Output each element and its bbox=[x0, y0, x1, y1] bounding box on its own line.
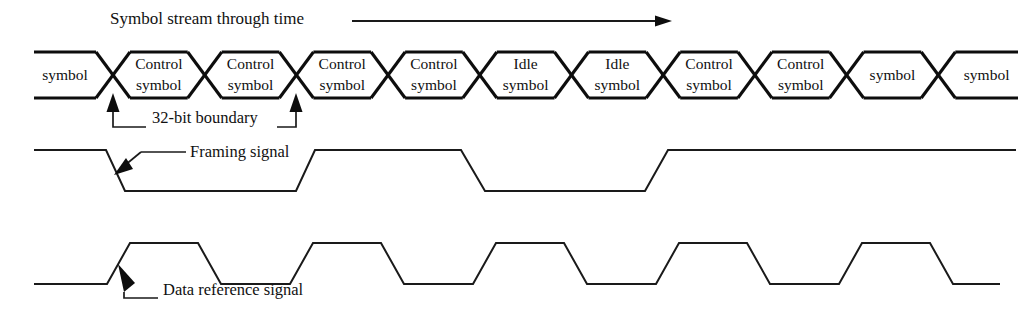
symbol-cell-label: symbol bbox=[870, 66, 916, 83]
framing-signal-waveform bbox=[34, 150, 1016, 191]
symbol-transition-crossing bbox=[279, 52, 313, 98]
symbol-transition-crossing bbox=[188, 52, 222, 98]
symbol-cell-label: symbol bbox=[411, 76, 457, 93]
symbol-cell-label: Idle bbox=[605, 55, 629, 72]
symbol-cell: symbol bbox=[955, 52, 1018, 98]
symbol-cell-label: Idle bbox=[514, 55, 538, 72]
symbol-cell-label: symbol bbox=[503, 76, 549, 93]
symbol-cell: symbol bbox=[34, 52, 96, 98]
symbol-cell-label: Control bbox=[135, 55, 182, 72]
symbol-cell-label: symbol bbox=[778, 76, 824, 93]
framing-signal-leader bbox=[114, 152, 186, 175]
symbol-stream-row: symbolControlsymbolControlsymbolControls… bbox=[34, 52, 1018, 98]
symbol-cell: Controlsymbol bbox=[313, 52, 371, 98]
symbol-cell-label: symbol bbox=[319, 76, 365, 93]
symbol-transition-crossing bbox=[830, 52, 864, 98]
symbol-transition-crossing bbox=[646, 52, 680, 98]
symbol-cell-label: symbol bbox=[686, 76, 732, 93]
symbol-cell-label: Control bbox=[777, 55, 824, 72]
data-reference-leader bbox=[118, 264, 158, 298]
symbol-transition-crossing bbox=[921, 52, 955, 98]
symbol-cell-label: Control bbox=[410, 55, 457, 72]
symbol-stream-timing-diagram: Symbol stream through time 32-bit bounda… bbox=[0, 0, 1033, 318]
symbol-cell-label: symbol bbox=[42, 66, 88, 83]
symbol-cell: Controlsymbol bbox=[130, 52, 188, 98]
symbol-transition-crossing bbox=[463, 52, 497, 98]
symbol-cell-label: symbol bbox=[228, 76, 274, 93]
right-arrow-icon bbox=[352, 16, 672, 27]
symbol-cell: Idlesymbol bbox=[497, 52, 555, 98]
data-reference-signal-waveform bbox=[34, 243, 1000, 284]
symbol-cell-label: Control bbox=[227, 55, 274, 72]
symbol-transition-crossing bbox=[738, 52, 772, 98]
symbol-cell: Idlesymbol bbox=[589, 52, 647, 98]
symbol-cell: symbol bbox=[864, 52, 922, 98]
symbol-cell-label: symbol bbox=[595, 76, 641, 93]
symbol-cell: Controlsymbol bbox=[222, 52, 280, 98]
symbol-cell-label: Control bbox=[319, 55, 366, 72]
symbol-transition-crossing bbox=[555, 52, 589, 98]
symbol-transition-crossing bbox=[96, 52, 130, 98]
symbol-cell: Controlsymbol bbox=[772, 52, 830, 98]
symbol-cell-label: Control bbox=[685, 55, 732, 72]
symbol-transition-crossing bbox=[371, 52, 405, 98]
symbol-cell: Controlsymbol bbox=[405, 52, 463, 98]
symbol-cell-label: symbol bbox=[964, 66, 1010, 83]
symbol-cell-label: symbol bbox=[136, 76, 182, 93]
symbol-cell: Controlsymbol bbox=[680, 52, 738, 98]
